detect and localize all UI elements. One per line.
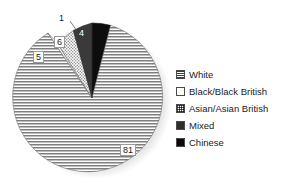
legend-label-mixed: Mixed <box>189 120 214 131</box>
legend-label-asian-british: Asian/Asian British <box>189 103 268 114</box>
legend-label-white: White <box>189 69 213 80</box>
pie-label-black-british: 5 <box>33 51 44 63</box>
pie-label-asian-british: 6 <box>54 36 65 48</box>
legend-label-chinese: Chinese <box>189 137 224 148</box>
legend-swatch-mixed-icon <box>176 121 185 130</box>
legend-label-black-british: Black/Black British <box>189 86 267 97</box>
legend-item-black-british[interactable]: Black/Black British <box>176 84 292 98</box>
legend-swatch-white-icon <box>176 70 185 79</box>
legend-swatch-asian-british-icon <box>176 104 185 113</box>
pie-label-white: 81 <box>120 144 136 156</box>
legend-swatch-black-british-icon <box>176 87 185 96</box>
chart-legend: White Black/Black British Asian/Asian Br… <box>176 67 292 152</box>
legend-item-mixed[interactable]: Mixed <box>176 118 292 132</box>
pie-svg <box>0 0 185 185</box>
legend-item-white[interactable]: White <box>176 67 292 81</box>
pie-label-chinese: 4 <box>79 28 84 38</box>
chart-canvas: 81 5 6 1 4 White Black/Black British Asi… <box>0 0 294 185</box>
legend-item-chinese[interactable]: Chinese <box>176 135 292 149</box>
pie-chart: 81 5 6 1 4 <box>0 0 185 185</box>
legend-swatch-chinese-icon <box>176 138 185 147</box>
legend-item-asian-british[interactable]: Asian/Asian British <box>176 101 292 115</box>
pie-label-mixed: 1 <box>59 13 64 23</box>
